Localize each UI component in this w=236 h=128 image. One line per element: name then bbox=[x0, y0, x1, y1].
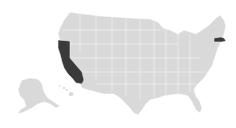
state-massachusetts[interactable] bbox=[214, 37, 226, 42]
us-map: United States bbox=[0, 0, 236, 128]
us-map-svg: United States bbox=[0, 0, 236, 128]
state-alaska[interactable] bbox=[18, 78, 60, 114]
contiguous-us[interactable] bbox=[58, 12, 226, 115]
state-hawaii[interactable] bbox=[59, 85, 74, 96]
